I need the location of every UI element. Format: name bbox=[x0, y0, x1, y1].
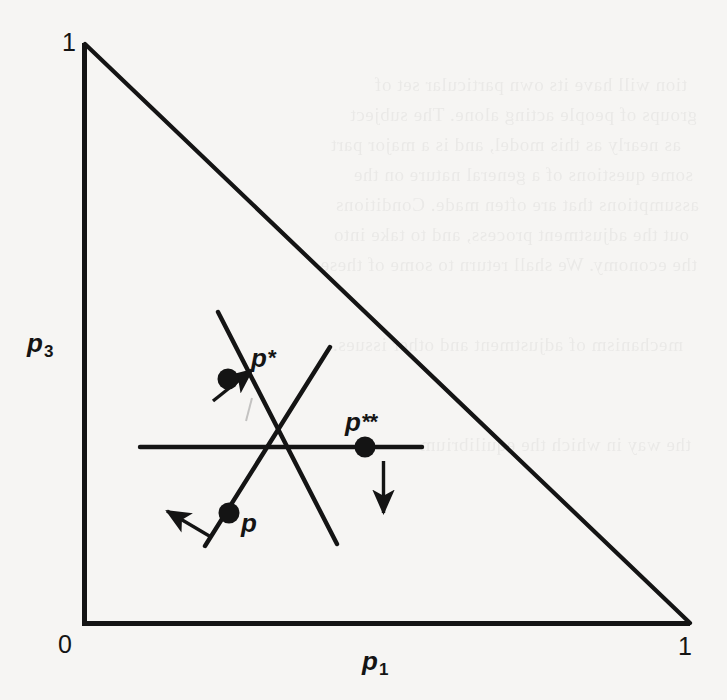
y-axis-title-base: p bbox=[27, 328, 43, 358]
figure-page: tion will have its own particular set of… bbox=[0, 0, 727, 700]
x-axis-title-base: p bbox=[362, 646, 378, 676]
scan-stray-mark bbox=[246, 398, 252, 421]
y-axis-title: p3 bbox=[27, 330, 52, 356]
point-marker-p bbox=[219, 503, 240, 524]
point-marker-p-star bbox=[218, 369, 239, 390]
point-label-p-star-star-asterisks: ** bbox=[362, 409, 377, 434]
point-label-p-star-asterisk: * bbox=[268, 345, 276, 370]
point-label-p-star-star-base: p bbox=[345, 407, 361, 437]
point-label-p-star-base: p bbox=[251, 343, 267, 373]
x-axis-title: p1 bbox=[362, 648, 387, 674]
y-axis-title-subscript: 3 bbox=[44, 342, 53, 361]
point-label-p-star-star: p** bbox=[345, 409, 376, 435]
simplex-hypotenuse-line bbox=[85, 44, 690, 623]
x-axis-max-label: 1 bbox=[678, 634, 692, 659]
origin-label: 0 bbox=[58, 632, 72, 657]
point-label-p-star: p* bbox=[251, 345, 274, 371]
x-axis-title-subscript: 1 bbox=[379, 660, 388, 679]
point-label-p: p bbox=[241, 510, 257, 536]
price-simplex-figure bbox=[0, 0, 727, 700]
point-marker-p-star-star bbox=[355, 437, 376, 458]
arrow-left-icon bbox=[167, 511, 211, 537]
y-axis-max-label: 1 bbox=[62, 30, 76, 55]
